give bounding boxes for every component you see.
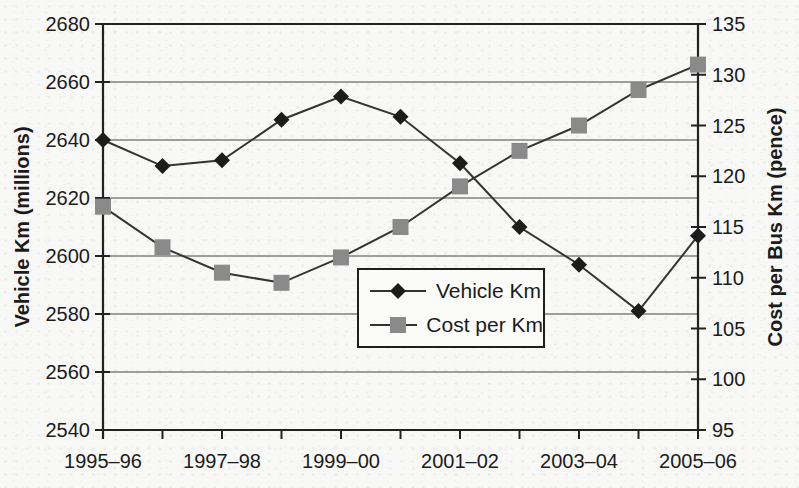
right-axis-tick-label: 110	[712, 267, 744, 289]
legend-item-vehicle-km: Vehicle Km	[369, 279, 543, 303]
left-axis-tick-label: 2640	[46, 129, 91, 151]
chart-plot-area: 2680266026402620260025802560254013513012…	[0, 0, 799, 488]
right-axis-tick-label: 120	[712, 165, 745, 187]
right-axis-tick-label: 130	[712, 64, 745, 86]
data-point-square	[274, 275, 290, 291]
x-axis-tick-label: 1997–98	[183, 450, 261, 472]
right-axis-tick-label: 115	[712, 216, 744, 238]
chart-panel: 2680266026402620260025802560254013513012…	[0, 0, 799, 488]
data-point-square	[452, 178, 468, 194]
data-point-diamond	[95, 132, 111, 148]
x-axis-tick-label: 1995–96	[64, 450, 142, 472]
right-axis-tick-label: 105	[712, 318, 745, 340]
right-axis-tick-label: 125	[712, 115, 745, 137]
data-point-square	[95, 199, 111, 215]
left-axis-tick-label: 2560	[46, 361, 91, 383]
data-point-square	[155, 239, 171, 255]
legend-item-cost-per-km: Cost per Km	[369, 313, 543, 337]
data-point-square	[393, 219, 409, 235]
data-point-diamond	[214, 152, 230, 168]
data-point-square	[571, 118, 587, 134]
x-axis-tick-label: 1999–00	[302, 450, 380, 472]
left-axis-title: Vehicle Km (millions)	[8, 24, 36, 430]
data-point-square	[512, 143, 528, 159]
data-point-diamond	[155, 158, 171, 174]
right-axis-tick-label: 135	[712, 13, 745, 35]
data-point-diamond	[274, 112, 290, 128]
left-axis-tick-label: 2540	[46, 419, 91, 441]
right-axis-tick-label: 95	[712, 419, 734, 441]
right-axis-tick-label: 100	[712, 368, 745, 390]
data-point-square	[333, 249, 349, 265]
left-axis-tick-label: 2660	[46, 71, 91, 93]
data-point-square	[690, 57, 706, 73]
legend-label-cost-per-km: Cost per Km	[426, 313, 543, 337]
data-point-square	[631, 82, 647, 98]
x-axis-tick-label: 2005–06	[659, 450, 737, 472]
series-line-square	[103, 65, 698, 283]
left-axis-tick-label: 2580	[46, 303, 91, 325]
left-axis-tick-label: 2600	[46, 245, 91, 267]
data-point-square	[214, 265, 230, 281]
diamond-marker-icon	[369, 281, 427, 301]
x-axis-tick-label: 2003–04	[540, 450, 618, 472]
square-marker-icon	[369, 315, 417, 335]
x-axis-tick-label: 2001–02	[421, 450, 499, 472]
data-point-diamond	[333, 89, 349, 105]
left-axis-tick-label: 2620	[46, 187, 91, 209]
left-axis-tick-label: 2680	[46, 13, 91, 35]
legend: Vehicle Km Cost per Km	[357, 268, 545, 348]
right-axis-title: Cost per Bus Km (pence)	[761, 24, 789, 430]
legend-label-vehicle-km: Vehicle Km	[436, 279, 541, 303]
